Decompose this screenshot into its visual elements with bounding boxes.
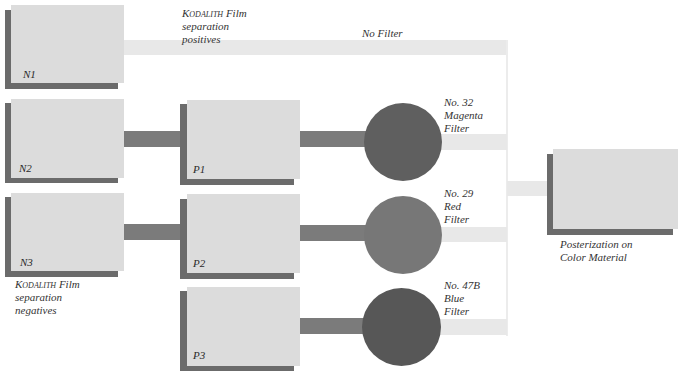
caption-text: positives — [182, 33, 247, 46]
caption-filter-blue: No. 47B Blue Filter — [444, 279, 480, 318]
brand-text: Kodalith — [15, 278, 56, 290]
filter-number: No. 47B — [444, 279, 480, 292]
filter-word: Filter — [444, 305, 480, 318]
caption-text: Color Material — [560, 251, 632, 264]
caption-positives: Kodalith Film separation positives — [182, 7, 247, 46]
filter-blue-circle — [362, 288, 441, 366]
card-n1-label: N1 — [23, 68, 36, 80]
caption-no-filter: No Filter — [362, 27, 403, 40]
caption-filter-red: No. 29 Red Filter — [444, 187, 473, 226]
filter-word: Filter — [444, 122, 483, 135]
caption-text: separation — [15, 291, 80, 304]
filter-red-circle — [364, 196, 442, 274]
card-n2-label: N2 — [19, 162, 32, 174]
filter-number: No. 29 — [444, 187, 473, 200]
card-p3-label: P3 — [193, 349, 205, 361]
red-output-connector — [440, 227, 507, 242]
caption-text: separation — [182, 20, 247, 33]
caption-text: Film — [56, 278, 80, 290]
card-p1-label: P1 — [193, 163, 205, 175]
filter-color: Blue — [444, 292, 480, 305]
p3-filter-connector — [298, 318, 370, 334]
filter-color: Magenta — [444, 109, 483, 122]
filter-magenta-circle — [364, 103, 442, 181]
blue-output-connector — [440, 319, 507, 335]
caption-output: Posterization on Color Material — [560, 238, 632, 264]
n2-p1-connector — [123, 131, 185, 147]
brand-text: Kodalith — [182, 7, 223, 19]
caption-text: Posterization on — [560, 238, 632, 251]
filter-word: Filter — [444, 213, 473, 226]
p2-filter-connector — [298, 225, 370, 241]
magenta-output-connector — [440, 134, 507, 150]
caption-filter-magenta: No. 32 Magenta Filter — [444, 96, 483, 135]
p1-filter-connector — [298, 131, 370, 147]
caption-text: negatives — [15, 304, 80, 317]
filter-number: No. 32 — [444, 96, 483, 109]
caption-negatives: Kodalith Film separation negatives — [15, 278, 80, 317]
card-p2-label: P2 — [193, 257, 205, 269]
caption-text: Film — [223, 7, 247, 19]
n3-p2-connector — [123, 224, 185, 240]
card-n3-label: N3 — [20, 256, 33, 268]
filter-color: Red — [444, 200, 473, 213]
